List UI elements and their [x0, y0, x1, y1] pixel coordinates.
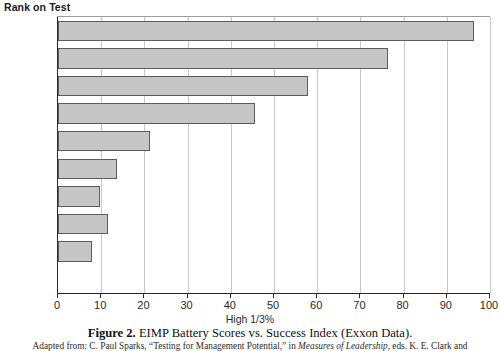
gridline [490, 17, 491, 293]
y-axis-title: Rank on Test [4, 1, 70, 13]
figure-number: Figure 2. [88, 326, 136, 340]
x-axis-tick [230, 293, 231, 298]
bar-row: 133-176 [58, 100, 490, 128]
bar-row: 221-265 [58, 155, 490, 183]
bar [58, 186, 100, 207]
x-axis-tick [143, 293, 144, 298]
x-axis-tick-label: 90 [440, 299, 452, 311]
source-suffix: , eds. K. E. Clark and [388, 341, 468, 351]
x-axis-tick-label: 80 [396, 299, 408, 311]
bar [58, 241, 92, 262]
bar [58, 159, 117, 180]
x-axis-tick [57, 293, 58, 298]
bar-row: 89-132 [58, 72, 490, 100]
plot-area: 1-4445-8889-132133-176177-220221-265266-… [57, 17, 490, 293]
x-axis-tick [403, 293, 404, 298]
bar-row: 400-443 [58, 265, 490, 293]
x-axis-tick-label: 30 [180, 299, 192, 311]
bar [58, 76, 308, 97]
bar-row: 45-88 [58, 45, 490, 73]
x-axis-tick-label: 100 [480, 299, 498, 311]
figure-caption: Figure 2. EIMP Battery Scores vs. Succes… [0, 326, 500, 341]
figure-container: Rank on Test 1-4445-8889-132133-176177-2… [0, 0, 500, 351]
bar-row: 356-399 [58, 238, 490, 266]
x-axis-tick [273, 293, 274, 298]
bar [58, 214, 108, 235]
bar [58, 21, 474, 42]
x-axis-title: High 1/3% [0, 313, 500, 325]
bar-row: 266-310 [58, 183, 490, 211]
figure-source-note: Adapted from: C. Paul Sparks, “Testing f… [0, 341, 500, 351]
x-axis-tick [316, 293, 317, 298]
source-book-title: Measures of Leadership [298, 341, 388, 351]
bar [58, 48, 388, 69]
bar-row: 311-355 [58, 210, 490, 238]
x-axis-tick [359, 293, 360, 298]
x-axis-tick-label: 20 [137, 299, 149, 311]
x-axis-tick-label: 70 [353, 299, 365, 311]
bar-row: 1-44 [58, 17, 490, 45]
x-axis-tick [187, 293, 188, 298]
x-axis-tick-label: 10 [94, 299, 106, 311]
x-axis-tick-label: 40 [224, 299, 236, 311]
x-axis-tick-label: 0 [54, 299, 60, 311]
x-axis-tick [489, 293, 490, 298]
source-prefix: Adapted from: C. Paul Sparks, “Testing f… [33, 341, 299, 351]
bar-row: 177-220 [58, 127, 490, 155]
bar [58, 103, 255, 124]
figure-caption-text: EIMP Battery Scores vs. Success Index (E… [139, 326, 412, 340]
x-axis-tick-label: 50 [267, 299, 279, 311]
x-axis-tick-label: 60 [310, 299, 322, 311]
x-axis-tick [446, 293, 447, 298]
bar [58, 131, 150, 152]
x-axis-tick [100, 293, 101, 298]
